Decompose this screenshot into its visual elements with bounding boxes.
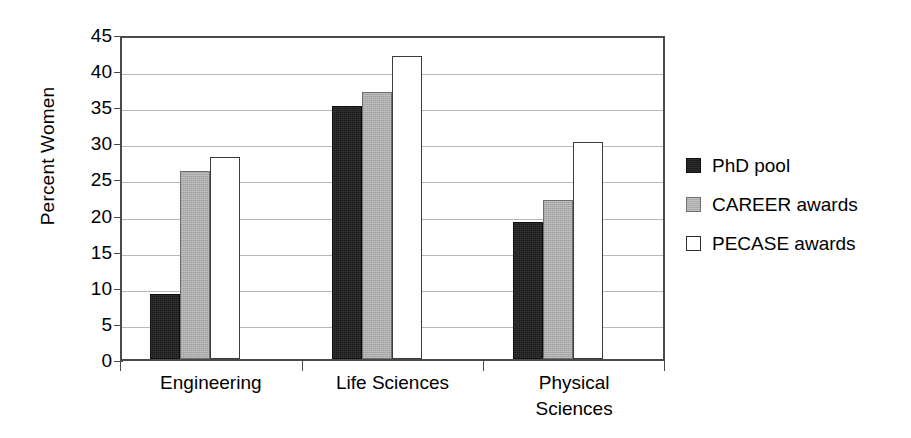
legend-swatch-icon	[686, 236, 701, 251]
y-axis-tick-label: 15	[58, 243, 112, 262]
y-axis-tick-label: 10	[58, 279, 112, 298]
x-axis-category-label: Engineering	[120, 370, 302, 396]
bar-chart-figure: Percent Women 051015202530354045 Enginee…	[0, 0, 911, 438]
bar-physical-sciences-pecase-awards	[573, 142, 603, 359]
legend-item-career-awards[interactable]: CAREER awards	[686, 185, 906, 224]
x-axis-category-label: PhysicalSciences	[483, 370, 665, 422]
x-axis-category-label: Life Sciences	[302, 370, 484, 396]
legend-item-phd-pool[interactable]: PhD pool	[686, 146, 906, 185]
y-axis-tick-label: 5	[58, 315, 112, 334]
y-axis-tick-label: 45	[58, 26, 112, 45]
x-axis-tick-mark	[483, 361, 484, 371]
y-axis-tick-label: 35	[58, 98, 112, 117]
y-axis-tick-label: 0	[58, 351, 112, 370]
x-axis-tick-mark	[664, 361, 665, 371]
bar-physical-sciences-phd-pool	[513, 222, 543, 359]
y-axis-tick-label: 25	[58, 170, 112, 189]
x-axis: EngineeringLife SciencesPhysicalSciences	[120, 361, 665, 437]
bar-life-sciences-phd-pool	[332, 106, 362, 359]
legend-item-pecase-awards[interactable]: PECASE awards	[686, 224, 906, 263]
x-axis-category-line: Physical	[483, 370, 665, 396]
legend-label: CAREER awards	[712, 195, 858, 214]
y-axis-tick-label: 40	[58, 62, 112, 81]
legend-label: PhD pool	[712, 156, 790, 175]
y-axis-tick-label: 30	[58, 134, 112, 153]
legend-swatch-icon	[686, 158, 701, 173]
bar-physical-sciences-career-awards	[543, 200, 573, 359]
x-axis-tick-mark	[302, 361, 303, 371]
x-axis-tick-mark	[120, 361, 121, 371]
bar-life-sciences-pecase-awards	[392, 56, 422, 359]
plot-area	[120, 36, 665, 361]
legend-label: PECASE awards	[712, 234, 856, 253]
x-axis-category-line: Engineering	[120, 370, 302, 396]
bar-life-sciences-career-awards	[362, 92, 392, 359]
y-axis-tick-label: 20	[58, 207, 112, 226]
chart-legend: PhD poolCAREER awardsPECASE awards	[686, 146, 906, 263]
x-axis-category-line: Life Sciences	[302, 370, 484, 396]
bar-engineering-career-awards	[180, 171, 210, 359]
y-axis-tick-group: 051015202530354045	[50, 36, 112, 361]
bar-engineering-pecase-awards	[210, 157, 240, 359]
legend-swatch-icon	[686, 197, 701, 212]
x-axis-category-line: Sciences	[483, 396, 665, 422]
bar-engineering-phd-pool	[150, 294, 180, 359]
